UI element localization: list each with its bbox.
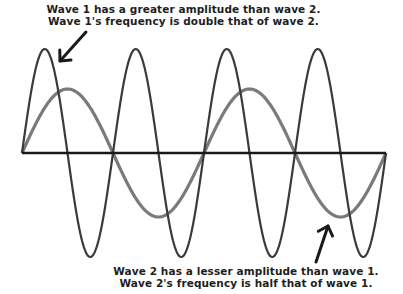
wave-diagram bbox=[0, 0, 403, 294]
bottom-caption: Wave 2 has a lesser amplitude than wave … bbox=[86, 265, 403, 289]
arrow-to-wave-2-icon bbox=[316, 226, 333, 262]
bottom-caption-line-2: Wave 2's frequency is half that of wave … bbox=[86, 277, 403, 289]
arrow-to-wave-1-icon bbox=[60, 32, 86, 61]
bottom-caption-line-1: Wave 2 has a lesser amplitude than wave … bbox=[86, 265, 403, 277]
